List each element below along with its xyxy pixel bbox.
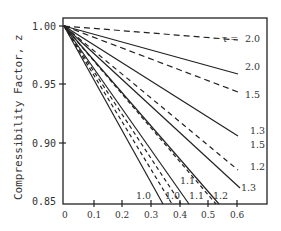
x-tick-label: 0.5 (201, 210, 216, 220)
x-tick-label: 0.4 (173, 210, 188, 220)
curve-label: 1.3 (250, 125, 265, 136)
x-tick-label: 0.1 (87, 210, 101, 220)
curve-label: 1.5 (250, 139, 265, 150)
curve-1.1-dashed (64, 26, 181, 204)
y-axis-title: Compressibility Factor, z (12, 34, 25, 200)
x-tick-label: 0.3 (144, 210, 159, 220)
curve-1.1-solid (64, 26, 189, 204)
curve-label: 1.3 (241, 182, 256, 193)
curve-label: 1.0 (136, 190, 151, 201)
y-tick-label: 1.00 (32, 21, 56, 32)
x-tick-label: 0 (62, 210, 68, 220)
x-tick-label: 0.6 (230, 210, 245, 220)
curve-label: 2.0 (245, 61, 260, 72)
curve-label: 1.5 (245, 89, 260, 100)
curve-label: 1.2 (213, 190, 228, 201)
curve-1.5-dashed (64, 26, 238, 92)
curve-label: 1.1 (189, 190, 204, 201)
curves (64, 26, 240, 204)
legend-tau-prefix: τ = (222, 33, 238, 44)
curve-label: 2.0 (245, 33, 260, 44)
curve-label: 1.1 (180, 175, 195, 186)
curve-label: 1.0 (165, 190, 180, 201)
curve-1.0-solid (64, 26, 163, 204)
curve-label: 1.2 (250, 161, 265, 172)
compressibility-chart: 1.00 0.95 0.90 0.85 0 0.1 0.2 0.3 0.4 0.… (0, 0, 281, 231)
curve-1.2-dashed (64, 26, 238, 170)
curve-1.3-solid (64, 26, 238, 136)
curve-1.0-dashed (64, 26, 172, 204)
y-tick-label: 0.90 (32, 138, 56, 149)
y-tick-label: 0.95 (32, 79, 56, 90)
x-tick-label: 0.2 (115, 210, 129, 220)
y-tick-label: 0.85 (32, 196, 56, 207)
plot-frame (63, 18, 267, 204)
